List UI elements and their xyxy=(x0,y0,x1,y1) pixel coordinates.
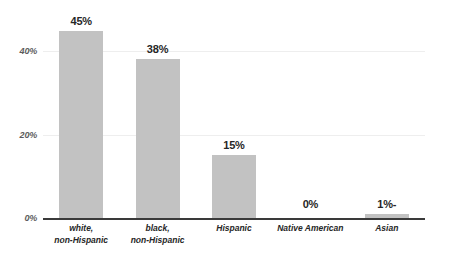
x-tick-label-white-non-hispanic: white, non-Hispanic xyxy=(43,222,119,246)
y-tick-label-40: 40% xyxy=(20,46,37,56)
bar-group-native-american[interactable]: 0% xyxy=(272,20,348,218)
bar-hispanic[interactable] xyxy=(212,155,256,218)
y-axis: 40% 20% 0% xyxy=(0,0,40,254)
x-tick-line1: white, xyxy=(69,223,93,233)
y-tick-label-0: 0% xyxy=(24,213,37,223)
bar-value-label-hispanic: 15% xyxy=(223,139,244,151)
x-tick-line1: Asian xyxy=(375,223,398,233)
plot-area: 45% 38% 15% 0% 1%- xyxy=(43,20,425,218)
bar-black-non-hispanic[interactable] xyxy=(136,59,180,218)
x-tick-label-native-american: Native American xyxy=(272,222,348,234)
x-tick-line1: black, xyxy=(146,223,170,233)
x-tick-label-black-non-hispanic: black, non-Hispanic xyxy=(119,222,195,246)
bar-group-asian[interactable]: 1%- xyxy=(349,20,425,218)
x-axis-baseline xyxy=(43,218,425,220)
bar-value-label-native-american: 0% xyxy=(303,198,319,210)
bar-value-label-black-non-hispanic: 38% xyxy=(147,43,168,55)
x-tick-label-asian: Asian xyxy=(349,222,425,234)
bar-white-non-hispanic[interactable] xyxy=(59,31,103,218)
x-tick-label-hispanic: Hispanic xyxy=(196,222,272,234)
x-tick-line2: non-Hispanic xyxy=(43,234,119,246)
bar-group-black-non-hispanic[interactable]: 38% xyxy=(119,20,195,218)
bar-value-label-white-non-hispanic: 45% xyxy=(70,15,91,27)
bar-value-label-asian: 1%- xyxy=(377,198,396,210)
bar-chart: 40% 20% 0% 45% 38% 15% 0% 1%- xyxy=(0,0,450,254)
x-tick-line1: Hispanic xyxy=(216,223,251,233)
bar-group-white-non-hispanic[interactable]: 45% xyxy=(43,20,119,218)
x-axis: white, non-Hispanic black, non-Hispanic … xyxy=(43,222,425,254)
y-tick-label-20: 20% xyxy=(20,130,37,140)
bar-group-hispanic[interactable]: 15% xyxy=(196,20,272,218)
x-tick-line1: Native American xyxy=(277,223,343,233)
x-tick-line2: non-Hispanic xyxy=(119,234,195,246)
